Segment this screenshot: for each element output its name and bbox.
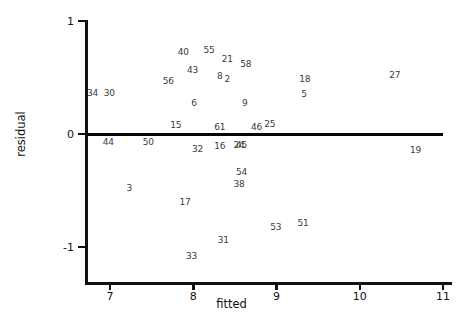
data-point-label: 30 (104, 89, 115, 98)
data-point-label: 46 (251, 123, 262, 132)
data-point-label: 34 (87, 89, 98, 98)
data-point-labels-layer: 3430564043615558221589614625185274450321… (0, 0, 463, 312)
data-point-label: 18 (299, 74, 310, 83)
data-point-label: 6 (191, 99, 197, 108)
data-point-label: 9 (242, 99, 248, 108)
data-point-label: 16 (214, 142, 225, 151)
data-point-label: 44 (103, 137, 114, 146)
data-point-label: 15 (170, 120, 181, 129)
data-point-label: 38 (234, 179, 245, 188)
data-point-label: 58 (240, 59, 251, 68)
data-point-label: 54 (236, 168, 247, 177)
data-point-label: 51 (298, 219, 309, 228)
data-point-label: 53 (270, 222, 281, 231)
data-point-label: 40 (178, 47, 189, 56)
data-point-label: 31 (218, 236, 229, 245)
data-point-label: 19 (410, 145, 421, 154)
data-point-label: 56 (163, 76, 174, 85)
data-point-label: 55 (204, 46, 215, 55)
data-point-label: 32 (192, 144, 203, 153)
data-point-label: 27 (389, 71, 400, 80)
y-axis-title: residual (14, 94, 28, 174)
data-point-label: 2 (225, 74, 231, 83)
data-point-label: 50 (143, 137, 154, 146)
data-point-label: 61 (214, 123, 225, 132)
data-point-label: 25 (264, 119, 275, 128)
data-point-label: 17 (179, 197, 190, 206)
data-point-label: 8 (217, 72, 223, 81)
data-point-label: 21 (222, 55, 233, 64)
data-point-label: 3 (126, 184, 132, 193)
data-point-label: 45 (236, 141, 247, 150)
data-point-label: 43 (187, 65, 198, 74)
data-point-label: 5 (301, 90, 307, 99)
data-point-label: 33 (186, 252, 197, 261)
scatter-plot-figure: 789101110-1 3430564043615558221589614625… (0, 0, 463, 312)
x-axis-title: fitted (0, 297, 463, 311)
